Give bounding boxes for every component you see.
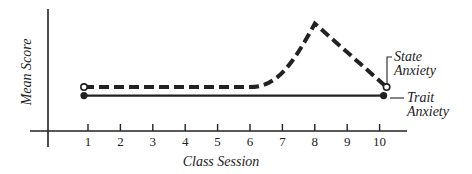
state-anxiety-label-2: Anxiety (393, 63, 437, 78)
x-tick-label: 3 (150, 134, 157, 149)
x-tick-label: 9 (344, 134, 351, 149)
x-ticks: 12345678910 (85, 124, 386, 149)
x-tick-label: 8 (312, 134, 319, 149)
x-tick-label: 2 (117, 134, 124, 149)
x-tick-label: 10 (373, 134, 386, 149)
state-anxiety-label: State (394, 49, 422, 64)
state-start-marker (81, 84, 87, 90)
x-tick-label: 4 (182, 134, 189, 149)
x-tick-label: 5 (214, 134, 221, 149)
state-anxiety-line (84, 24, 387, 87)
trait-anxiety-label: Trait (407, 90, 435, 105)
line-chart: 12345678910 Mean Score Class Session Sta… (0, 0, 472, 174)
x-axis-title: Class Session (183, 154, 260, 169)
state-label-leader (387, 57, 392, 84)
trait-anxiety-label-2: Anxiety (406, 104, 450, 119)
x-tick-label: 6 (247, 134, 254, 149)
x-tick-label: 1 (85, 134, 92, 149)
state-end-marker (383, 84, 389, 90)
x-tick-label: 7 (279, 134, 286, 149)
trait-start-marker (80, 92, 87, 99)
y-axis-title: Mean Score (19, 39, 34, 107)
trait-end-marker (380, 92, 387, 99)
